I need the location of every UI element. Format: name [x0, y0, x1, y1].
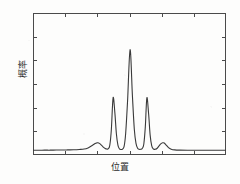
probability-distribution-figure: 概率 位置 — [0, 0, 240, 184]
probability-curve-svg — [33, 13, 226, 155]
y-axis-label: 概率 — [16, 41, 29, 97]
probability-curve-line — [33, 50, 226, 151]
axis-tick-marks — [33, 13, 226, 155]
x-axis-label: 位置 — [0, 160, 240, 173]
plot-area — [33, 13, 226, 155]
